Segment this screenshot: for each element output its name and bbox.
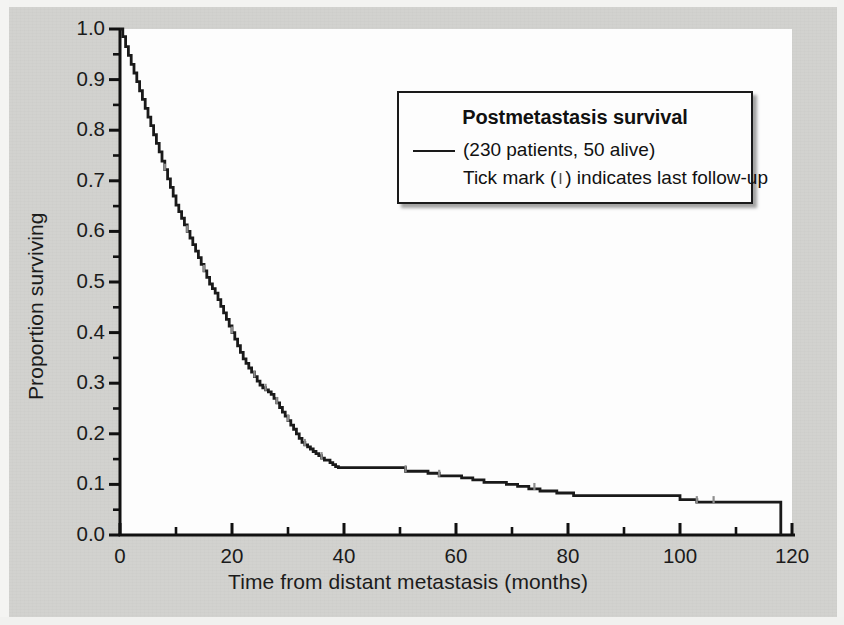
y-tick-label: 0.0 <box>47 522 105 546</box>
legend-title: Postmetastasis survival <box>399 106 751 129</box>
figure-container: 0.00.10.20.30.40.50.60.70.80.91.0 020406… <box>0 0 844 625</box>
y-axis-label: Proportion surviving <box>24 212 48 400</box>
y-tick-label: 0.9 <box>47 67 105 91</box>
y-tick-label: 0.3 <box>47 370 105 394</box>
x-tick-label: 100 <box>640 544 720 568</box>
x-tick-label: 0 <box>80 544 160 568</box>
legend-note-prefix: Tick mark ( <box>463 167 556 188</box>
y-tick-label: 0.8 <box>47 117 105 141</box>
y-tick-label: 0.7 <box>47 168 105 192</box>
legend-line-swatch <box>413 150 455 152</box>
y-tick-label: 0.2 <box>47 421 105 445</box>
x-tick-label: 120 <box>752 544 832 568</box>
x-tick-label: 20 <box>192 544 272 568</box>
y-tick-label: 0.4 <box>47 320 105 344</box>
x-tick-label: 80 <box>528 544 608 568</box>
legend-note-suffix: ) indicates last follow-up <box>565 167 768 188</box>
y-tick-label: 0.5 <box>47 269 105 293</box>
y-tick-label: 0.6 <box>47 218 105 242</box>
legend-entry-patients: (230 patients, 50 alive) <box>463 139 655 161</box>
inline-censor-tick-icon <box>556 171 565 186</box>
legend-box: Postmetastasis survival (230 patients, 5… <box>397 91 753 204</box>
x-tick-label: 60 <box>416 544 496 568</box>
x-axis-label: Time from distant metastasis (months) <box>228 570 588 594</box>
x-tick-label: 40 <box>304 544 384 568</box>
y-tick-label: 0.1 <box>47 471 105 495</box>
y-tick-label: 1.0 <box>47 16 105 40</box>
legend-entry-tickmark-note: Tick mark () indicates last follow-up <box>463 167 768 189</box>
